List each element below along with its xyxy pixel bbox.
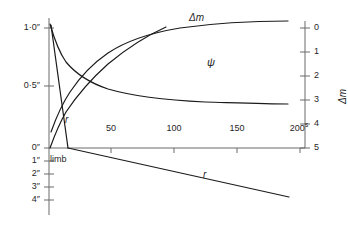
y-tick-label-4-arcsec: 4″ <box>14 195 40 204</box>
y-tick-label-2-arcsec: 2″ <box>14 169 40 178</box>
right-tick-label-0: 0 <box>314 23 319 32</box>
right-axis-title-delta-m: Δm <box>338 89 348 104</box>
x-tick-label-200-value: 200 <box>290 123 305 133</box>
x-tick-label-200: 200s <box>282 124 316 133</box>
y-tick-label-3-arcsec: 3″ <box>14 182 40 191</box>
right-tick-label-1: 1 <box>314 47 319 56</box>
annotation-limb: limb <box>50 155 67 164</box>
right-tick-label-3: 3 <box>314 95 319 104</box>
curve-label-r-lower: r <box>203 170 206 180</box>
curve-delta-m <box>51 21 288 132</box>
curve-r-descending-tail <box>68 148 289 197</box>
right-tick-label-5: 5 <box>314 143 319 152</box>
x-tick-label-150: 150 <box>222 124 252 133</box>
x-axis-unit-seconds: s <box>305 121 308 128</box>
y-tick-label-0p5-arcsec: 0·5″ <box>12 81 40 90</box>
x-tick-label-100: 100 <box>159 124 189 133</box>
x-tick-label-50: 50 <box>96 124 126 133</box>
curve-psi <box>50 24 288 104</box>
y-tick-label-1-arcsec: 1″ <box>14 156 40 165</box>
y-tick-label-0-arcsec: 0″ <box>14 143 40 152</box>
curve-label-delta-m: Δm <box>189 13 204 23</box>
curve-label-psi: ψ <box>207 57 215 68</box>
curve-label-r-upper: r <box>65 115 68 125</box>
right-tick-label-4: 4 <box>314 119 319 128</box>
y-tick-label-1p0-arcsec: 1·0″ <box>12 23 40 32</box>
right-tick-label-2: 2 <box>314 71 319 80</box>
